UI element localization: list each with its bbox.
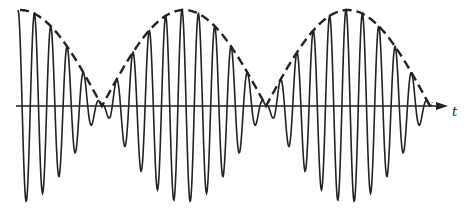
axis-arrow-icon (436, 102, 448, 110)
time-axis-label: t (452, 104, 457, 119)
envelope-curve (20, 10, 432, 106)
beat-wave-diagram (0, 0, 469, 213)
